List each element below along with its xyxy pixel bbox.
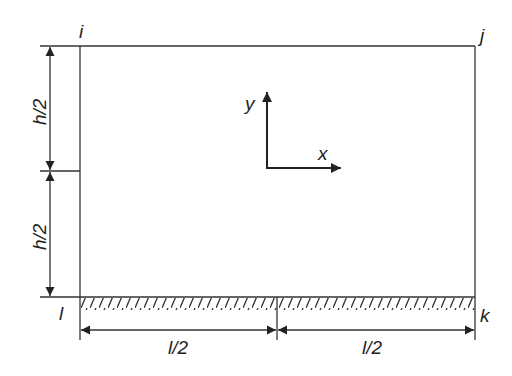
node-k-label: k bbox=[480, 305, 491, 326]
diagram-canvas: i j k l y x h/2 h/2 l/2 l/2 bbox=[0, 0, 512, 376]
node-j-label: j bbox=[477, 25, 485, 46]
node-i-label: i bbox=[79, 21, 84, 42]
node-l-label: l bbox=[59, 303, 64, 324]
fixed-support-hatch bbox=[80, 298, 475, 310]
dim-right-width-label: l/2 bbox=[362, 337, 383, 358]
plate-outline bbox=[40, 46, 475, 340]
dim-lower-height-label: h/2 bbox=[29, 223, 50, 250]
dim-upper-height-label: h/2 bbox=[29, 98, 50, 125]
dim-left-width-label: l/2 bbox=[168, 337, 189, 358]
axis-x-label: x bbox=[317, 143, 329, 164]
axis-y-label: y bbox=[243, 93, 256, 114]
plate-diagram: i j k l y x h/2 h/2 l/2 l/2 bbox=[0, 0, 512, 376]
coordinate-axes bbox=[266, 92, 341, 168]
